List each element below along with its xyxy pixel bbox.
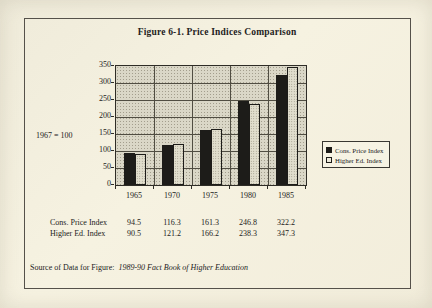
source-value: 1989-90 Fact Book of Higher Education <box>118 263 248 272</box>
y-axis-tick-300 <box>111 82 114 83</box>
y-axis-tick-100 <box>111 150 114 151</box>
chart-plot-area <box>115 65 307 186</box>
table-row-label-cons-price-index: Cons. Price Index <box>50 218 107 227</box>
y-axis-tick-150 <box>111 133 114 134</box>
legend-item-higher-ed-index: Higher Ed. Index <box>326 155 387 165</box>
bar-cons-price-index-1965 <box>124 153 135 185</box>
y-axis-label-50: 50 <box>81 163 111 171</box>
legend-item-cons-price-index: Cons. Price Index <box>326 145 387 155</box>
x-axis-label-1970: 1970 <box>153 191 191 200</box>
y-axis-tick-50 <box>111 167 114 168</box>
bar-cons-price-index-1980 <box>238 101 249 185</box>
legend-label-cons-price-index: Cons. Price Index <box>335 147 384 154</box>
bar-higher-ed-index-1975 <box>211 129 222 186</box>
x-axis-tick-3 <box>229 186 230 189</box>
source-label: Source of Data for Figure: <box>30 263 114 272</box>
x-axis-tick-2 <box>191 186 192 189</box>
bar-cons-price-index-1970 <box>162 145 173 185</box>
table-value-higher-ed-index-1985: 347.3 <box>267 229 305 238</box>
gridline-v-2 <box>192 66 193 185</box>
legend-swatch-light-icon <box>326 157 332 163</box>
table-value-cons-price-index-1975: 161.3 <box>191 218 229 227</box>
y-axis-tick-350 <box>111 65 114 66</box>
legend-label-higher-ed-index: Higher Ed. Index <box>335 157 382 164</box>
y-axis-label-300: 300 <box>81 78 111 86</box>
table-value-higher-ed-index-1970: 121.2 <box>153 229 191 238</box>
legend-swatch-dark-icon <box>326 147 332 153</box>
x-axis-label-1965: 1965 <box>115 191 153 200</box>
table-value-cons-price-index-1965: 94.5 <box>115 218 153 227</box>
figure-page: Figure 6-1. Price Indices Comparison 196… <box>0 0 432 308</box>
x-axis-label-1985: 1985 <box>267 191 305 200</box>
x-axis-tick-5 <box>305 186 306 189</box>
y-axis-tick-200 <box>111 116 114 117</box>
bar-cons-price-index-1985 <box>276 75 287 185</box>
source-line: Source of Data for Figure:1989-90 Fact B… <box>30 263 248 272</box>
y-axis-tick-250 <box>111 99 114 100</box>
bar-higher-ed-index-1980 <box>249 104 260 185</box>
table-value-cons-price-index-1985: 322.2 <box>267 218 305 227</box>
y-axis-label-350: 350 <box>81 61 111 69</box>
bar-higher-ed-index-1970 <box>173 144 184 185</box>
bar-cons-price-index-1975 <box>200 130 211 185</box>
bar-higher-ed-index-1965 <box>135 154 146 185</box>
axis-base-note: 1967 = 100 <box>36 131 73 140</box>
y-axis-label-200: 200 <box>81 112 111 120</box>
y-axis-label-250: 250 <box>81 95 111 103</box>
y-axis-label-150: 150 <box>81 129 111 137</box>
figure-title: Figure 6-1. Price Indices Comparison <box>24 27 410 37</box>
x-axis-tick-0 <box>115 186 116 189</box>
table-value-higher-ed-index-1980: 238.3 <box>229 229 267 238</box>
table-row-label-higher-ed-index: Higher Ed. Index <box>50 229 105 238</box>
x-axis-tick-4 <box>267 186 268 189</box>
y-axis-label-100: 100 <box>81 146 111 154</box>
table-value-cons-price-index-1970: 116.3 <box>153 218 191 227</box>
table-value-higher-ed-index-1975: 166.2 <box>191 229 229 238</box>
gridline-v-1 <box>154 66 155 185</box>
y-axis-tick-0 <box>111 184 114 185</box>
x-axis-label-1980: 1980 <box>229 191 267 200</box>
gridline-v-3 <box>230 66 231 185</box>
bar-higher-ed-index-1985 <box>287 67 298 185</box>
chart-legend: Cons. Price Index Higher Ed. Index <box>322 141 390 168</box>
x-axis-label-1975: 1975 <box>191 191 229 200</box>
table-value-cons-price-index-1980: 246.8 <box>229 218 267 227</box>
gridline-v-4 <box>268 66 269 185</box>
x-axis-tick-1 <box>153 186 154 189</box>
y-axis-label-0: 0 <box>81 180 111 188</box>
table-value-higher-ed-index-1965: 90.5 <box>115 229 153 238</box>
